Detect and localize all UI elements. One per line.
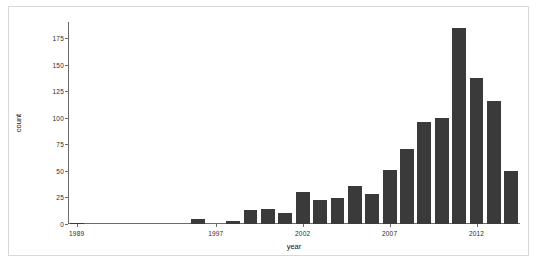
x-tick-mark <box>390 224 391 227</box>
bar <box>365 194 379 224</box>
y-tick-label: 175 <box>53 34 64 41</box>
bar <box>191 219 205 224</box>
bar <box>452 28 466 224</box>
bar <box>348 186 362 224</box>
bar <box>261 209 275 224</box>
y-tick-label: 125 <box>53 88 64 95</box>
bar <box>331 198 345 224</box>
bar <box>400 149 414 224</box>
x-tick-mark <box>77 224 78 227</box>
bar <box>313 200 327 224</box>
y-tick-label: 0 <box>60 221 64 228</box>
y-tick-label: 75 <box>56 141 64 148</box>
y-tick-mark <box>65 171 68 172</box>
y-tick-mark <box>65 38 68 39</box>
bar <box>470 78 484 224</box>
x-axis-title: year <box>68 242 520 251</box>
x-tick-mark <box>216 224 217 227</box>
plot-area <box>68 22 520 224</box>
bar-group <box>68 22 520 224</box>
x-tick-label: 2002 <box>295 230 310 237</box>
y-tick-label: 50 <box>56 167 64 174</box>
y-tick-label: 150 <box>53 61 64 68</box>
x-tick-mark <box>477 224 478 227</box>
bar <box>383 170 397 224</box>
y-tick-mark <box>65 65 68 66</box>
y-tick-mark <box>65 224 68 225</box>
x-tick-label: 2007 <box>382 230 397 237</box>
y-tick-mark <box>65 118 68 119</box>
y-tick-label: 100 <box>53 114 64 121</box>
y-tick-mark <box>65 197 68 198</box>
x-tick-label: 2012 <box>469 230 484 237</box>
y-tick-label-group: 0255075100125150175 <box>40 0 64 267</box>
bar <box>504 171 518 224</box>
bar <box>244 210 258 224</box>
y-tick-mark <box>65 144 68 145</box>
x-tick-mark <box>303 224 304 227</box>
bar <box>435 118 449 224</box>
x-tick-label: 1989 <box>69 230 84 237</box>
bar <box>226 221 240 224</box>
figure-canvas: 0255075100125150175 year count 198919972… <box>0 0 539 267</box>
y-axis-title: count <box>14 114 23 132</box>
y-tick-mark <box>65 91 68 92</box>
x-tick-label: 1997 <box>208 230 223 237</box>
bar <box>278 213 292 224</box>
y-tick-label: 25 <box>56 194 64 201</box>
bar <box>487 101 501 224</box>
bar <box>296 192 310 224</box>
bar <box>417 122 431 224</box>
